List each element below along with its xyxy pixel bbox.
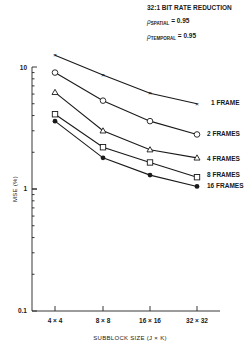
marker-circle-filled bbox=[148, 173, 153, 178]
x-ticks bbox=[55, 306, 197, 311]
marker-circle-open bbox=[52, 70, 58, 76]
marker-square-open bbox=[52, 112, 57, 117]
series-1-frame: ×××× bbox=[53, 52, 199, 107]
x-tick-label-8x8: 8 × 8 bbox=[96, 317, 111, 324]
y-tick-label-0.1: 0.1 bbox=[18, 307, 27, 314]
marker-square-open bbox=[194, 174, 199, 179]
marker-circle-open bbox=[147, 118, 153, 124]
marker-x: × bbox=[148, 90, 152, 96]
legend-label-2-frames: 2 FRAMES bbox=[207, 130, 241, 137]
marker-triangle-open bbox=[52, 89, 58, 94]
series-8-frames bbox=[52, 112, 199, 180]
legend-label-8-frames: 8 FRAMES bbox=[207, 171, 241, 178]
rho-temporal-annotation: ρTEMPORAL = 0.95 bbox=[146, 32, 196, 41]
axes bbox=[32, 67, 220, 311]
marker-square-open bbox=[147, 160, 152, 165]
chart-title: 32:1 BIT RATE REDUCTION bbox=[147, 4, 232, 11]
series-line bbox=[55, 73, 197, 135]
series-line bbox=[55, 55, 197, 104]
series-line bbox=[55, 114, 197, 177]
marker-square-open bbox=[100, 145, 105, 150]
x-tick-label-4x4: 4 × 4 bbox=[48, 317, 63, 324]
marker-circle-filled bbox=[101, 155, 106, 160]
rho-spatial-annotation: ρSPATIAL = 0.95 bbox=[146, 17, 190, 26]
y-axis-label: MSE (%) bbox=[12, 176, 18, 202]
series-layer: ×××× bbox=[52, 52, 200, 189]
y-tick-label-1: 1 bbox=[23, 185, 27, 192]
x-tick-label-32x32: 32 × 32 bbox=[186, 317, 208, 324]
marker-circle-filled bbox=[53, 119, 58, 124]
marker-circle-filled bbox=[195, 184, 200, 189]
marker-circle-open bbox=[194, 132, 200, 138]
y-ticks bbox=[32, 67, 37, 311]
x-axis-label: SUBBLOCK SIZE (J × K) bbox=[93, 335, 166, 341]
mse-chart: 32:1 BIT RATE REDUCTION ρSPATIAL = 0.95 … bbox=[0, 0, 246, 351]
y-tick-label-10: 10 bbox=[20, 64, 28, 71]
x-tick-label-16x16: 16 × 16 bbox=[139, 317, 161, 324]
marker-x: × bbox=[195, 101, 199, 107]
legend-label-16-frames: 16 FRAMES bbox=[207, 182, 244, 189]
marker-x: × bbox=[101, 72, 105, 78]
legend-label-4-frames: 4 FRAMES bbox=[207, 155, 241, 162]
marker-circle-open bbox=[100, 98, 106, 104]
series-line bbox=[55, 92, 197, 158]
legend-label-1-frame: 1 FRAME bbox=[211, 99, 240, 106]
marker-x: × bbox=[53, 52, 57, 58]
